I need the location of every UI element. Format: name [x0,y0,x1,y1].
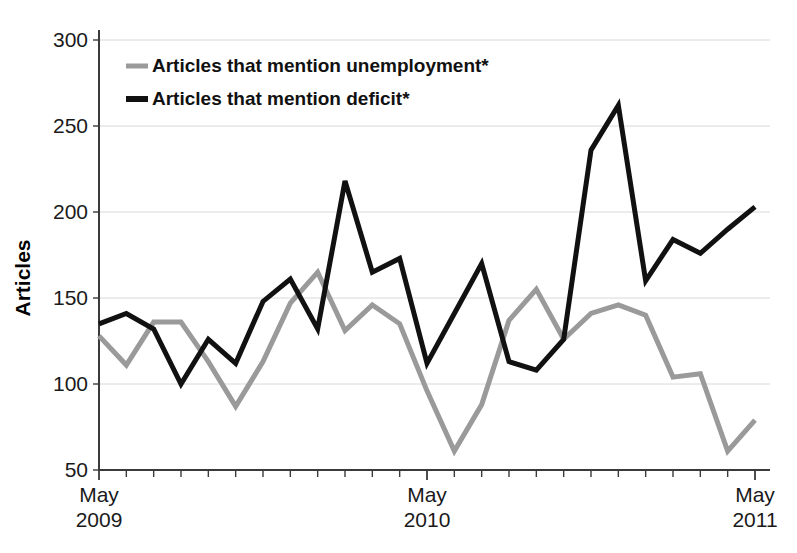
y-tick-label: 250 [53,114,88,137]
y-tick-label: 50 [65,458,88,481]
x-tick-labels: May2009May2010May2011 [76,483,778,531]
y-axis-title: Articles [11,239,34,316]
x-tick-label-month: May [407,483,447,506]
legend-label-deficit: Articles that mention deficit* [152,88,410,109]
chart-legend: Articles that mention unemployment*Artic… [126,55,489,109]
data-series [99,105,755,451]
chart-container: 50100150200250300 Articles May2009May201… [0,0,797,553]
y-tick-labels: 50100150200250300 [53,28,99,481]
x-tick-label-year: 2009 [76,508,123,531]
x-tick-marks [99,470,755,480]
x-tick-label-month: May [735,483,775,506]
x-axis: May2009May2010May2011 [76,470,778,531]
line-chart: 50100150200250300 Articles May2009May201… [0,0,797,553]
y-tick-label: 300 [53,28,88,51]
y-tick-label: 200 [53,200,88,223]
y-tick-label: 150 [53,286,88,309]
y-tick-label: 100 [53,372,88,395]
x-tick-label-month: May [79,483,119,506]
x-tick-label-year: 2010 [404,508,451,531]
y-axis: 50100150200250300 Articles [11,28,99,481]
legend-label-unemployment: Articles that mention unemployment* [152,55,489,76]
x-tick-label-year: 2011 [732,508,777,531]
